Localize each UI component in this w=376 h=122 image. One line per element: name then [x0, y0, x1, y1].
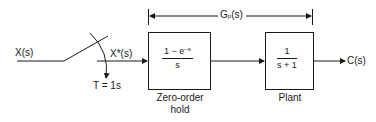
input-label: X(s) [15, 47, 33, 59]
zoh-caption: Zero-order hold [148, 92, 212, 116]
gp-label: Gp(s) [220, 9, 243, 21]
plant-caption: Plant [265, 92, 315, 104]
plant-transfer-function: 1 s + 1 [277, 46, 297, 71]
sampled-signal-label: X*(s) [110, 48, 132, 60]
sampling-period-label: T = 1s [93, 80, 121, 92]
sampling-arc-icon [90, 33, 107, 78]
output-label: C(s) [347, 55, 366, 67]
zoh-transfer-function: 1 − e−s s [162, 46, 193, 71]
